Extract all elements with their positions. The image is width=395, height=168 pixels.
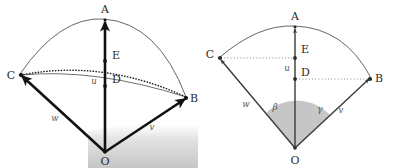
label-B-right: B xyxy=(375,72,383,85)
point-dot-C-right xyxy=(218,56,222,60)
label-A-left: A xyxy=(100,3,110,16)
label-v-right: v xyxy=(339,105,344,115)
point-dot-O-right xyxy=(293,146,297,150)
label-A-right: A xyxy=(290,10,300,23)
point-dot-D-right xyxy=(293,77,297,81)
point-dot-D xyxy=(103,84,107,88)
vector-OC xyxy=(22,76,105,152)
label-v-left: v xyxy=(150,122,155,132)
label-O-left: O xyxy=(100,155,109,168)
label-gamma-right: γ xyxy=(317,104,323,114)
label-u-left: u xyxy=(91,76,96,86)
point-dot-O xyxy=(103,150,107,154)
label-u-right: u xyxy=(284,63,289,73)
label-C-left: C xyxy=(7,69,15,82)
point-dot-B xyxy=(184,96,188,100)
label-E-right: E xyxy=(301,43,309,56)
label-E-left: E xyxy=(112,49,120,62)
label-C-right: C xyxy=(206,48,214,61)
point-dot-A xyxy=(104,19,107,22)
right-panel: A E D u C B O w v β γ xyxy=(206,10,383,167)
small-circle-back-CEB xyxy=(21,70,186,97)
point-dot-E xyxy=(103,59,107,63)
point-dot-C xyxy=(19,73,23,77)
label-w-right: w xyxy=(242,99,250,109)
label-D-left: D xyxy=(112,73,121,86)
point-dot-E-right xyxy=(293,56,297,60)
label-w-left: w xyxy=(51,113,59,123)
label-O-right: O xyxy=(290,154,299,167)
label-B-left: B xyxy=(190,92,198,105)
geometry-figure: A E D u C B O w v A E D xyxy=(0,0,395,168)
label-beta-right: β xyxy=(271,102,277,112)
label-D-right: D xyxy=(301,66,310,79)
point-dot-B-right xyxy=(368,77,372,81)
point-dot-A-right xyxy=(294,26,297,29)
left-panel: A E D u C B O w v xyxy=(7,3,198,168)
great-circle-arc-CAB xyxy=(20,19,186,97)
